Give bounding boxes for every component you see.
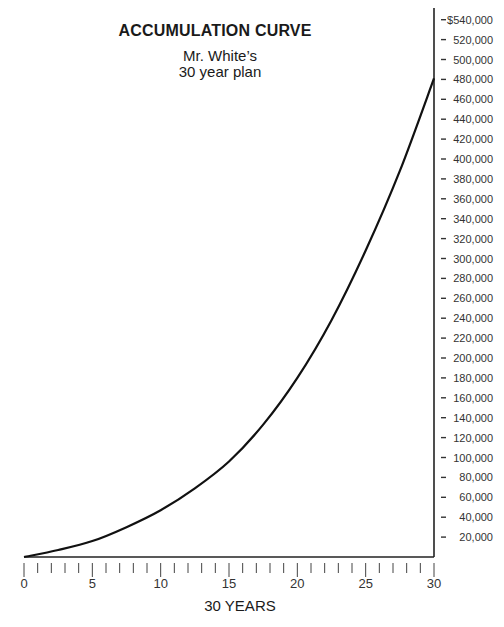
y-tick-label: 160,000 bbox=[453, 392, 493, 404]
y-tick-label: 20,000 bbox=[459, 531, 493, 543]
y-tick-label: 100,000 bbox=[453, 452, 493, 464]
y-tick-label: 520,000 bbox=[453, 34, 493, 46]
y-tick-label: 60,000 bbox=[459, 491, 493, 503]
x-tick-label: 25 bbox=[358, 576, 372, 591]
accumulation-curve bbox=[24, 78, 434, 557]
y-tick-label: 440,000 bbox=[453, 113, 493, 125]
y-tick-label: 500,000 bbox=[453, 54, 493, 66]
x-tick-label: 20 bbox=[290, 576, 304, 591]
x-tick-label: 30 bbox=[427, 576, 441, 591]
y-tick-label: 180,000 bbox=[453, 372, 493, 384]
accumulation-chart: $540,000520,000500,000480,000460,000440,… bbox=[0, 0, 504, 627]
y-tick-label: 260,000 bbox=[453, 292, 493, 304]
y-tick-label: 300,000 bbox=[453, 253, 493, 265]
y-tick-label: 140,000 bbox=[453, 412, 493, 424]
x-tick-label: 5 bbox=[89, 576, 96, 591]
y-tick-label: 400,000 bbox=[453, 153, 493, 165]
y-tick-label: 480,000 bbox=[453, 73, 493, 85]
y-tick-label: 280,000 bbox=[453, 272, 493, 284]
y-axis-ticks: $540,000520,000500,000480,000460,000440,… bbox=[441, 14, 493, 543]
axes bbox=[24, 8, 434, 557]
y-tick-label: 40,000 bbox=[459, 511, 493, 523]
y-tick-label: 80,000 bbox=[459, 471, 493, 483]
y-tick-label: 380,000 bbox=[453, 173, 493, 185]
x-tick-label: 0 bbox=[20, 576, 27, 591]
y-tick-label: 360,000 bbox=[453, 193, 493, 205]
y-tick-label: 320,000 bbox=[453, 233, 493, 245]
y-tick-label: 240,000 bbox=[453, 312, 493, 324]
y-tick-label: 420,000 bbox=[453, 133, 493, 145]
y-tick-label: $540,000 bbox=[447, 14, 493, 26]
y-tick-label: 340,000 bbox=[453, 213, 493, 225]
x-tick-label: 15 bbox=[222, 576, 236, 591]
x-tick-label: 10 bbox=[153, 576, 167, 591]
y-tick-label: 460,000 bbox=[453, 93, 493, 105]
y-tick-label: 200,000 bbox=[453, 352, 493, 364]
y-tick-label: 120,000 bbox=[453, 432, 493, 444]
x-axis-ticks: 051015202530 bbox=[20, 563, 441, 591]
y-tick-label: 220,000 bbox=[453, 332, 493, 344]
x-axis-title: 30 YEARS bbox=[150, 597, 330, 614]
